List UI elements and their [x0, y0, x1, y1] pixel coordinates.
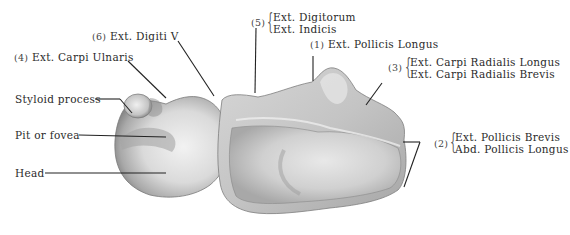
label-text: Ext. Digiti V: [110, 30, 179, 42]
label-ext-digiti-v: (6) Ext. Digiti V: [92, 30, 179, 43]
label-ext-indicis: Ext. Indicis: [273, 23, 337, 35]
label-ext-carpi-radialis-longus: Ext. Carpi Radialis Longus: [410, 56, 560, 68]
label-abd-pollicis-longus: Abd. Pollicis Longus: [455, 143, 569, 155]
label-ext-digitorum: Ext. Digitorum: [273, 11, 356, 23]
label-head: Head: [15, 167, 45, 179]
label-pit-or-fovea: Pit or fovea: [15, 129, 80, 141]
label-number-5: (5): [251, 17, 265, 29]
anatomy-figure: Styloid process Pit or fovea Head (4) Ex…: [0, 0, 570, 235]
label-text: Ext. Carpi Ulnaris: [32, 51, 134, 63]
label-styloid-process: Styloid process: [15, 93, 101, 105]
bone-illustration: [0, 0, 570, 235]
label-number-2: (2): [434, 138, 448, 150]
label-number-3: (3): [388, 62, 402, 74]
ulna: [115, 94, 229, 197]
label-number: (6): [92, 31, 106, 42]
label-ext-carpi-ulnaris: (4) Ext. Carpi Ulnaris: [14, 51, 134, 64]
label-ext-pollicis-brevis: Ext. Pollicis Brevis: [455, 131, 560, 143]
label-text: Ext. Pollicis Longus: [328, 38, 438, 50]
label-number: (4): [14, 52, 28, 63]
label-ext-pollicis-longus: (1) Ext. Pollicis Longus: [310, 38, 438, 51]
label-number: (1): [310, 39, 324, 50]
label-ext-carpi-radialis-brevis: Ext. Carpi Radialis Brevis: [410, 68, 555, 80]
